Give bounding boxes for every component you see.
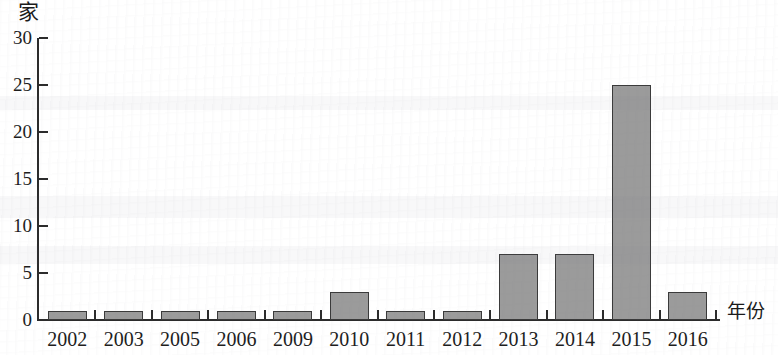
bar xyxy=(330,292,369,320)
y-axis-tick xyxy=(39,178,48,180)
x-axis-tick-label: 2016 xyxy=(656,327,720,351)
y-axis-tick xyxy=(39,37,48,39)
x-axis-tick xyxy=(377,310,379,319)
y-axis-tick-label: 30 xyxy=(0,28,32,47)
y-axis-tick xyxy=(39,272,48,274)
bar xyxy=(612,85,651,320)
scan-band-upper xyxy=(0,96,778,110)
y-axis-tick-label: 15 xyxy=(0,169,32,188)
y-axis-tick-label: 0 xyxy=(0,310,32,329)
x-axis-tick xyxy=(546,310,548,319)
x-axis-tick-label: 2002 xyxy=(35,327,99,351)
x-axis-tick-label: 2009 xyxy=(261,327,325,351)
x-axis-title: 年份 xyxy=(727,300,765,322)
scan-band-mid xyxy=(0,196,778,218)
x-axis-tick xyxy=(659,310,661,319)
bar xyxy=(499,254,538,320)
y-axis-tick xyxy=(39,131,48,133)
x-axis-tick xyxy=(94,310,96,319)
y-axis-tick xyxy=(39,225,48,227)
x-axis-tick xyxy=(151,310,153,319)
bar xyxy=(273,311,312,320)
bar xyxy=(386,311,425,320)
x-axis-tick-label: 2010 xyxy=(317,327,381,351)
y-axis-tick xyxy=(39,319,48,321)
x-axis-tick xyxy=(320,310,322,319)
bar-chart: 家 051015202530 2002200320052006200920102… xyxy=(0,0,778,355)
x-axis-tick xyxy=(489,310,491,319)
x-axis-tick-label: 2003 xyxy=(92,327,156,351)
x-axis-tick-label: 2015 xyxy=(599,327,663,351)
x-axis-tick-label: 2005 xyxy=(148,327,212,351)
scan-band-lower xyxy=(0,246,778,264)
x-axis-tick xyxy=(207,310,209,319)
y-axis-tick-label: 25 xyxy=(0,75,32,94)
y-axis-tick-label: 5 xyxy=(0,263,32,282)
x-axis-tick xyxy=(433,310,435,319)
bar xyxy=(161,311,200,320)
x-axis-tick-label: 2011 xyxy=(374,327,438,351)
x-axis-tick-label: 2012 xyxy=(430,327,494,351)
paper-texture xyxy=(0,0,778,355)
x-axis-tick-label: 2013 xyxy=(487,327,551,351)
bar xyxy=(443,311,482,320)
bar xyxy=(668,292,707,320)
y-axis-tick xyxy=(39,84,48,86)
y-axis-unit-label: 家 xyxy=(18,0,39,24)
x-axis-tick xyxy=(264,310,266,319)
x-axis-tick xyxy=(715,310,717,319)
bar xyxy=(48,311,87,320)
x-axis-tick-label: 2014 xyxy=(543,327,607,351)
x-axis-tick xyxy=(602,310,604,319)
x-axis-tick-label: 2006 xyxy=(204,327,268,351)
y-axis-tick-label: 10 xyxy=(0,216,32,235)
bar xyxy=(104,311,143,320)
y-axis-tick-label: 20 xyxy=(0,122,32,141)
bar xyxy=(217,311,256,320)
bar xyxy=(555,254,594,320)
